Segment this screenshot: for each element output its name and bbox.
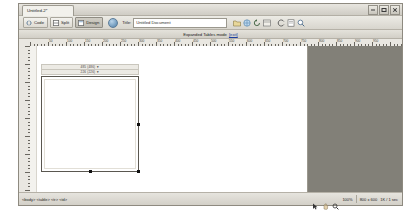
view-options-icon[interactable] bbox=[263, 19, 271, 27]
selected-table[interactable] bbox=[41, 76, 139, 172]
split-icon bbox=[53, 20, 59, 26]
expanded-tables-label: Expanded Tables mode bbox=[183, 32, 227, 37]
document-tab[interactable]: Untitled-2* bbox=[22, 5, 74, 16]
table-width-label-bottom: 226 (226) ▼ bbox=[81, 70, 100, 74]
design-view-label: Design bbox=[86, 20, 99, 25]
application-window: Untitled-2* Code Split Design Title: bbox=[18, 3, 403, 206]
title-bar: Untitled-2* bbox=[19, 4, 402, 16]
status-bar: <body> <table> <tr> <td> 100% 800 x 600 … bbox=[19, 192, 402, 205]
expanded-tables-banner: Expanded Tables mode [exit] bbox=[19, 30, 402, 39]
ruler-label: 200 bbox=[103, 39, 108, 43]
table-corner-resize-handle[interactable] bbox=[137, 170, 140, 173]
ruler-label: 650 bbox=[265, 39, 270, 43]
ruler-label: 500 bbox=[211, 39, 216, 43]
ruler-label: 750 bbox=[301, 39, 306, 43]
code-icon bbox=[26, 20, 32, 26]
zoom-level[interactable]: 100% bbox=[342, 197, 352, 202]
minimize-icon[interactable] bbox=[368, 5, 378, 15]
ruler-label: 600 bbox=[247, 39, 252, 43]
check-browser-support-icon[interactable] bbox=[297, 19, 305, 27]
status-divider bbox=[356, 195, 357, 203]
validate-markup-icon[interactable] bbox=[287, 19, 295, 27]
tag-selector[interactable]: <body> <table> <tr> <td> bbox=[19, 197, 312, 202]
code-view-label: Code bbox=[34, 20, 44, 25]
ruler-label: 550 bbox=[229, 39, 234, 43]
ruler-label: 50 bbox=[49, 39, 53, 43]
split-view-button[interactable]: Split bbox=[50, 17, 73, 28]
table-bottom-resize-handle[interactable] bbox=[89, 170, 92, 173]
document-title-input[interactable]: Untitled Document bbox=[133, 18, 227, 28]
window-controls bbox=[368, 5, 400, 15]
ruler-label: 250 bbox=[121, 39, 126, 43]
magnifier-icon[interactable] bbox=[332, 196, 339, 203]
ruler-label: 900 bbox=[355, 39, 360, 43]
design-icon bbox=[78, 20, 84, 26]
close-icon[interactable] bbox=[390, 5, 400, 15]
design-view-button[interactable]: Design bbox=[75, 17, 103, 28]
document-page[interactable]: 485 (486) ▼ 226 (226) ▼ bbox=[30, 46, 308, 193]
table-container: 485 (486) ▼ 226 (226) ▼ bbox=[41, 64, 139, 172]
table-cell[interactable] bbox=[44, 79, 136, 169]
dreamweaver-document-window: Untitled-2* Code Split Design Title: bbox=[0, 0, 409, 216]
ruler-label: 350 bbox=[157, 39, 162, 43]
visual-aids-icon[interactable] bbox=[277, 19, 285, 27]
title-field-label: Title: bbox=[122, 20, 131, 25]
hand-icon[interactable] bbox=[322, 196, 329, 203]
exit-expanded-tables-link[interactable]: [exit] bbox=[229, 32, 238, 37]
ruler-label: 300 bbox=[139, 39, 144, 43]
code-view-button[interactable]: Code bbox=[23, 17, 48, 28]
download-size: 1K / 1 sec bbox=[380, 197, 398, 202]
toolbar-icon-group-1 bbox=[233, 19, 271, 27]
ruler-label: 700 bbox=[283, 39, 288, 43]
refresh-design-view-icon[interactable] bbox=[253, 19, 261, 27]
maximize-icon[interactable] bbox=[379, 5, 389, 15]
table-width-indicator-bottom[interactable]: 226 (226) ▼ bbox=[41, 70, 139, 75]
window-size[interactable]: 800 x 600 bbox=[360, 197, 378, 202]
ruler-label: 850 bbox=[337, 39, 342, 43]
document-toolbar: Code Split Design Title: Untitled Docume… bbox=[19, 16, 402, 30]
ruler-label: 450 bbox=[193, 39, 198, 43]
table-width-label-top: 485 (486) ▼ bbox=[81, 65, 100, 69]
split-view-label: Split bbox=[61, 20, 69, 25]
ruler-label: 150 bbox=[85, 39, 90, 43]
ruler-label: 100 bbox=[67, 39, 72, 43]
arrow-select-icon[interactable] bbox=[312, 196, 319, 203]
file-management-icon[interactable] bbox=[233, 19, 241, 27]
table-right-resize-handle[interactable] bbox=[137, 123, 140, 126]
status-right-group: 100% 800 x 600 1K / 1 sec bbox=[312, 195, 402, 203]
design-canvas[interactable]: 485 (486) ▼ 226 (226) ▼ bbox=[30, 46, 402, 193]
ruler-label: 400 bbox=[175, 39, 180, 43]
globe-icon[interactable] bbox=[108, 18, 118, 28]
ruler-label: 800 bbox=[319, 39, 324, 43]
expanded-tables-gutter bbox=[30, 46, 37, 192]
ruler-label: 950 bbox=[373, 39, 378, 43]
toolbar-icon-group-2 bbox=[277, 19, 305, 27]
tag-selector-text[interactable]: <body> <table> <tr> <td> bbox=[22, 197, 67, 202]
preview-in-browser-icon[interactable] bbox=[243, 19, 251, 27]
